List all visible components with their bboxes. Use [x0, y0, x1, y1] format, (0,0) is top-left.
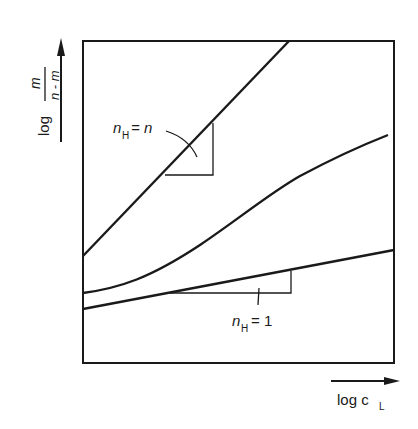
- x-label-subscript: L: [379, 401, 385, 412]
- annotation-upper-eq: = n: [131, 119, 152, 136]
- annotation-nh-equals-1: n H = 1: [232, 312, 272, 334]
- curve-intermediate: [83, 135, 388, 293]
- curve-nh-equals-1: [83, 250, 394, 309]
- slope-triangle-upper: [165, 123, 213, 175]
- annotation-upper-var: n: [113, 119, 121, 136]
- annotation-upper-sub: H: [122, 130, 129, 141]
- annotation-nh-equals-n: n H = n: [113, 119, 152, 141]
- x-label-main: log c: [337, 391, 369, 408]
- annotation-lower-sub: H: [241, 323, 248, 334]
- y-axis-label: log m n - m: [27, 67, 62, 136]
- x-axis-label: log c L: [337, 391, 385, 412]
- annotation-lower-eq: = 1: [251, 312, 272, 329]
- y-label-numerator: m: [27, 77, 43, 89]
- hill-plot-figure: log m n - m log c L n H = n n H = 1: [0, 0, 418, 429]
- annotation-lower-var: n: [232, 312, 240, 329]
- y-label-denominator: n - m: [47, 70, 62, 100]
- x-axis-arrow: [331, 377, 400, 385]
- curve-nh-equals-n: [83, 41, 289, 256]
- leader-lower: [258, 288, 259, 305]
- y-label-log: log: [35, 116, 52, 136]
